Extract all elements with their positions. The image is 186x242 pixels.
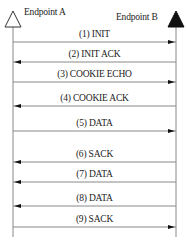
arrowhead-icon — [168, 225, 175, 229]
arrowhead-icon — [14, 160, 21, 164]
arrowhead-icon — [14, 104, 21, 108]
message-label-5: (5) DATA — [13, 118, 176, 128]
arrowhead-icon — [14, 60, 21, 64]
arrowhead-icon — [168, 40, 175, 44]
filled-triangle-icon — [168, 11, 184, 27]
endpoint-a-label: Endpoint A — [24, 7, 66, 17]
message-label-4: (4) COOKIE ACK — [13, 93, 176, 103]
message-label-3: (3) COOKIE ECHO — [13, 69, 176, 79]
message-label-7: (7) DATA — [13, 169, 176, 179]
message-label-6: (6) SACK — [13, 149, 176, 159]
arrowhead-icon — [14, 204, 21, 208]
arrowhead-icon — [14, 180, 21, 184]
message-label-8: (8) DATA — [13, 193, 176, 203]
hollow-triangle-icon — [5, 11, 21, 27]
message-label-9: (9) SACK — [13, 214, 176, 224]
endpoint-b-label: Endpoint B — [116, 12, 158, 22]
message-label-1: (1) INIT — [13, 29, 176, 39]
message-label-2: (2) INIT ACK — [13, 49, 176, 59]
arrowhead-icon — [168, 80, 175, 84]
sequence-diagram: Endpoint A Endpoint B (1) INIT (2) INIT … — [0, 0, 186, 242]
arrowhead-icon — [168, 129, 175, 133]
